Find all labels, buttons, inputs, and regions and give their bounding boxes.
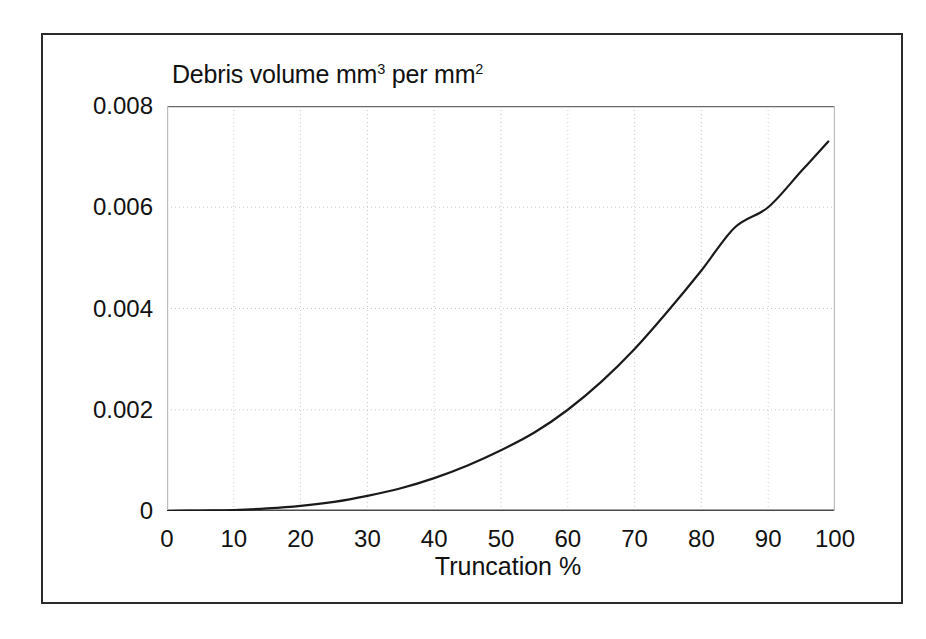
x-tick-label: 100: [815, 525, 855, 553]
x-tick-label: 30: [354, 525, 381, 553]
x-tick-label: 70: [621, 525, 648, 553]
x-tick-label: 60: [554, 525, 581, 553]
x-tick-label: 20: [287, 525, 314, 553]
x-axis-title-text: Truncation %: [435, 552, 581, 580]
y-tick-label: 0.004: [0, 295, 153, 323]
title-superscript-3: 3: [377, 61, 385, 77]
chart-title: Debris volume mm3 per mm2: [172, 60, 483, 89]
x-tick-label: 0: [160, 525, 173, 553]
y-tick-label: 0: [0, 497, 153, 525]
x-axis-title: Truncation %: [0, 552, 926, 581]
x-tick-label: 10: [220, 525, 247, 553]
y-tick-label: 0.006: [0, 193, 153, 221]
y-tick-label: 0.008: [0, 92, 153, 120]
chart-svg: [167, 106, 835, 511]
title-superscript-2: 2: [475, 61, 483, 77]
x-tick-label: 90: [755, 525, 782, 553]
horizontal-gridlines: [167, 207, 835, 410]
x-tick-label: 40: [421, 525, 448, 553]
y-tick-label: 0.002: [0, 396, 153, 424]
plot-area: [167, 106, 835, 511]
figure-container: Debris volume mm3 per mm2 0.0080.0060.00…: [0, 0, 926, 639]
x-tick-label: 50: [488, 525, 515, 553]
data-series-line: [167, 141, 828, 511]
x-tick-label: 80: [688, 525, 715, 553]
